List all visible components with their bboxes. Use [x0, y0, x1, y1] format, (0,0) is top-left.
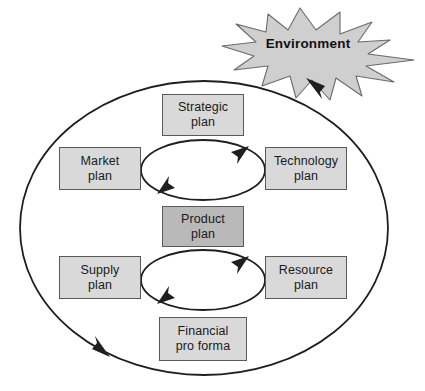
node-resource-plan-line2: plan [294, 278, 318, 293]
node-supply-plan-line1: Supply [81, 263, 120, 278]
node-technology-plan-line2: plan [294, 169, 318, 184]
upper-inner-arrowhead-bottom-left [157, 176, 175, 194]
node-market-plan: Market plan [59, 147, 141, 190]
node-financial-pro-forma: Financial pro forma [159, 317, 247, 361]
node-resource-plan: Resource plan [265, 256, 347, 299]
node-product-plan-line1: Product [181, 212, 225, 227]
lower-inner-arrowhead-top-right [231, 256, 249, 274]
node-supply-plan-line2: plan [88, 278, 112, 293]
planning-cycle-diagram: Environment Strategic plan Market plan T… [0, 0, 425, 391]
node-product-plan: Product plan [162, 206, 244, 247]
node-strategic-plan: Strategic plan [162, 94, 244, 136]
node-financial-pro-forma-line2: pro forma [176, 339, 230, 354]
environment-label: Environment [243, 32, 373, 54]
outer-cycle-arrowhead-bottom-left [92, 336, 110, 357]
node-market-plan-line1: Market [81, 154, 120, 169]
node-technology-plan: Technology plan [265, 147, 347, 190]
node-financial-pro-forma-line1: Financial [178, 324, 229, 339]
node-technology-plan-line1: Technology [274, 154, 338, 169]
node-strategic-plan-line2: plan [191, 115, 215, 130]
node-strategic-plan-line1: Strategic [178, 100, 228, 115]
node-resource-plan-line1: Resource [279, 263, 333, 278]
node-market-plan-line2: plan [88, 169, 112, 184]
upper-inner-arrowhead-top-right [231, 146, 249, 164]
node-product-plan-line2: plan [191, 227, 215, 242]
node-supply-plan: Supply plan [59, 256, 141, 299]
lower-inner-arrowhead-bottom-left [157, 286, 175, 304]
